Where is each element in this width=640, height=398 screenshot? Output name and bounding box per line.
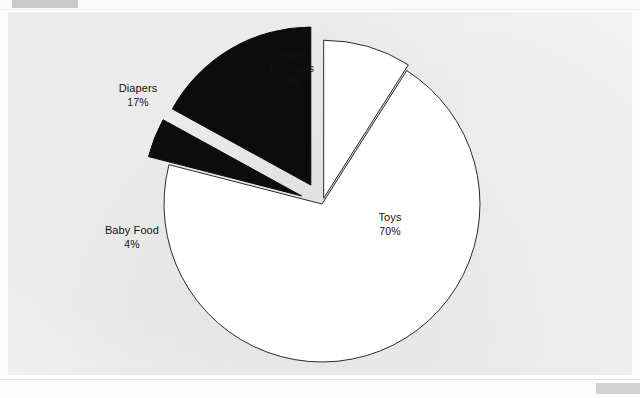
header-faint-text (84, 0, 404, 7)
footer-rule (0, 379, 640, 380)
pie-label-name-baby-food: Baby Food (84, 224, 180, 238)
footer-gray-bar (596, 383, 640, 394)
pie-label-infant-products: Infant Products9% (246, 48, 338, 89)
pie-label-name-toys: Toys (350, 211, 430, 225)
pie-label-value-diapers: 17% (92, 96, 184, 110)
pie-label-value-infant-products: 9% (246, 75, 338, 89)
chart-plate: Infant Products9%Toys70%Baby Food4%Diape… (8, 12, 632, 375)
chart-page: Infant Products9%Toys70%Baby Food4%Diape… (0, 0, 640, 398)
pie-label-diapers: Diapers17% (92, 82, 184, 109)
pie-label-name-diapers: Diapers (92, 82, 184, 96)
pie-label-name-infant-products: Infant Products (246, 48, 338, 75)
header-gray-bar (12, 0, 78, 8)
header-rule (0, 9, 640, 10)
pie-label-toys: Toys70% (350, 211, 430, 238)
pie-label-baby-food: Baby Food4% (84, 224, 180, 251)
pie-label-value-baby-food: 4% (84, 238, 180, 252)
pie-label-value-toys: 70% (350, 225, 430, 239)
